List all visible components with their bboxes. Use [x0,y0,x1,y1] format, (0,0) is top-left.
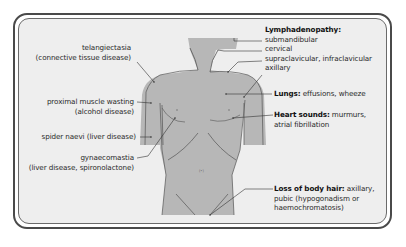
label-title: Lungs: [274,89,301,98]
label-text: effusions, wheeze [301,89,366,98]
label-line: submandibular [265,35,372,45]
label-title: Heart sounds: [274,110,330,119]
label-line: gynaecomastia [29,153,134,163]
label-line: supraclavicular, infraclavicular [265,54,372,64]
label-proximal-muscle-wasting: proximal muscle wasting (alcohol disease… [47,97,134,116]
label-line: pubic (hypogonadism or [274,194,374,204]
label-lungs: Lungs: effusions, wheeze [274,89,366,99]
label-line: haemochromatosis) [274,203,374,213]
label-line: spider naevi (liver disease) [42,132,136,142]
label-line: proximal muscle wasting [47,97,134,107]
label-line: (connective tissue disease) [36,53,131,63]
label-line: (liver disease, spironolactone) [29,163,134,173]
label-line: axillary [265,63,372,73]
torso-silhouette [140,38,266,215]
label-loss-of-body-hair: Loss of body hair: axillary, pubic (hypo… [274,184,374,213]
label-title: Loss of body hair: [274,184,345,193]
label-telangiectasia: telangiectasia (connective tissue diseas… [36,43,131,62]
label-line: (alcohol disease) [47,107,134,117]
label-gynaecomastia: gynaecomastia (liver disease, spironolac… [29,153,134,172]
label-line: atrial fibrillation [274,120,366,130]
label-lymphadenopathy: Lymphadenopathy: submandibular cervical … [265,25,372,73]
label-text: axillary, [345,184,375,193]
label-line: cervical [265,44,372,54]
label-title: Lymphadenopathy: [265,25,372,35]
label-heart-sounds: Heart sounds: murmurs, atrial fibrillati… [274,110,366,129]
svg-text:(•): (•) [199,169,204,173]
label-text: murmurs, [330,110,366,119]
label-line: telangiectasia [36,43,131,53]
label-spider-naevi: spider naevi (liver disease) [42,132,136,142]
